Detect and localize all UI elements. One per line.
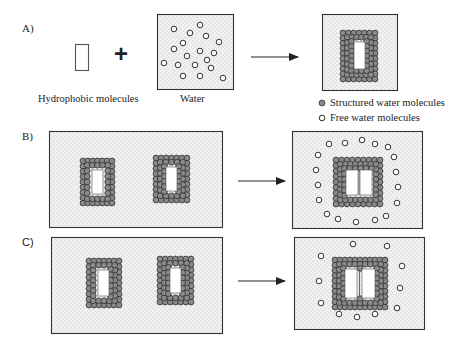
free-water-molecule [353,219,359,225]
structured-water-molecule [373,192,379,198]
free-water-molecule [197,73,203,79]
hydrophobic-cavity [92,170,103,194]
hydrophobic-cavity [98,270,109,296]
free-water-molecule [397,285,403,291]
free-water-molecule [187,30,193,36]
free-water-molecule [372,311,378,317]
free-water-molecule [391,154,397,160]
free-water-molecule [383,213,389,219]
hydrophobic-cavity [166,167,177,191]
structured-water-cage [153,155,190,203]
free-water-molecule [161,60,167,66]
structured-water-molecule [84,168,90,174]
free-water-molecule [372,141,378,147]
free-water-molecule [399,263,405,269]
free-water-molecule [315,152,321,158]
free-water-molecule [192,62,198,68]
structured-water-molecule [105,174,111,180]
free-water-molecule [384,243,390,249]
water-label: Water [180,93,205,105]
legend-structured-label: Structured water molecules [330,97,445,109]
legend-icons [319,100,325,121]
hydrophobic-effect-diagram [0,0,461,348]
hydrophobic-molecules-label: Hydrophobic molecules [38,93,139,105]
structured-water-molecule [173,260,179,266]
structured-water-molecule [105,185,111,191]
structured-water-molecule [84,179,90,185]
free-water-molecule [184,53,190,59]
structured-water-cage [333,157,383,207]
structured-water-molecule [319,100,325,106]
free-water-molecule [171,46,177,52]
hydrophobic-molecule-icon [76,45,89,71]
free-water-molecule [203,33,209,39]
hydrophobic-cavity [346,170,358,195]
structured-water-molecule [169,193,175,199]
free-water-molecule [316,278,322,284]
structured-water-molecule [84,190,90,196]
structured-water-molecule [105,168,111,174]
structured-water-molecule [101,262,107,268]
structured-water-cage [86,258,122,308]
free-water-molecule [336,311,342,317]
free-water-molecule [395,184,401,190]
free-water-molecule [204,57,210,63]
free-water-molecule [211,50,217,56]
separated-molecules-box [52,238,223,334]
structured-water-cage [157,256,194,305]
separated-molecules-box [50,132,223,228]
free-water-molecule [318,253,324,259]
structured-water-molecule [105,196,111,202]
free-water-molecule [180,73,186,79]
free-water-molecule [372,217,378,223]
free-water-molecule [394,200,400,206]
hydrophobic-cavity [354,42,365,69]
structured-water-molecule [105,162,111,168]
free-water-molecule [220,75,226,81]
free-water-molecule [385,144,391,150]
structured-water-molecule [96,298,102,304]
structured-water-molecule [173,295,179,301]
structured-water-molecule [105,190,111,196]
structured-water-molecule [96,262,102,268]
legend-free-label: Free water molecules [330,112,420,124]
free-water-molecule [354,314,360,320]
structured-water-molecule [349,63,355,69]
hydrophobic-cavity [345,269,357,298]
free-water-molecule [318,300,324,306]
free-water-molecule [393,169,399,175]
hydrophobic-cavity [360,170,372,195]
free-water-molecule [197,22,203,28]
free-water-molecule [171,26,177,32]
structured-water-molecule [169,159,175,165]
structured-water-cage [80,158,115,206]
panel-c-label: C) [22,236,34,248]
structured-water-cage [332,257,388,310]
free-water-molecule [315,182,321,188]
plus-sign: + [114,41,128,67]
hydrophobic-cavity [170,268,181,293]
free-water-molecule [326,141,332,147]
free-water-molecule [313,167,319,173]
structured-water-molecule [105,179,111,185]
structured-water-molecule [84,185,90,191]
free-water-molecule [316,197,322,203]
structured-water-molecule [84,174,90,180]
free-water-molecule [197,48,203,54]
hydrophobic-cavity [362,269,375,298]
free-water-molecule [319,115,325,121]
free-water-molecule [359,137,365,143]
panel-b [50,132,423,229]
panel-c [52,238,425,334]
free-water-molecule [216,39,222,45]
free-water-molecule [342,140,348,146]
panel-a-label: A) [22,22,34,34]
free-water-molecule [335,216,341,222]
structured-water-molecule [101,298,107,304]
free-water-molecule [175,62,181,68]
structured-water-molecule [90,293,96,299]
structured-water-cage [340,30,378,82]
free-water-molecule [208,65,214,71]
free-water-molecule [394,305,400,311]
panel-b-label: B) [22,130,33,142]
